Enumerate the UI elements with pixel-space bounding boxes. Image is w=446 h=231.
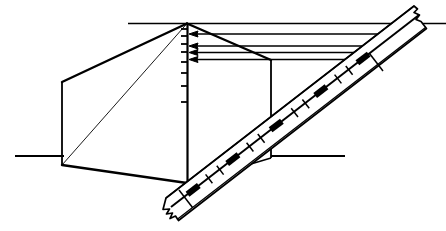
ray-arrow [189, 50, 356, 56]
box-edge-top-left [62, 24, 187, 83]
ray-arrow-head [189, 50, 198, 56]
technical-line-drawing [0, 0, 446, 231]
vertical-scale [181, 23, 188, 183]
ray-arrow-head [189, 31, 198, 37]
box-edge-top-right [187, 24, 271, 61]
ray-arrow [189, 43, 378, 49]
diagonal-ruler [163, 6, 427, 221]
ray-arrow-head [189, 57, 198, 63]
box-interior-diagonal [62, 24, 187, 166]
ruler-graduation-line [171, 15, 419, 207]
figure-canvas [0, 0, 446, 231]
ruler-edge-lower [177, 28, 426, 220]
ray-arrow-head [189, 43, 198, 49]
box-edge-bottom-left [62, 165, 187, 183]
ruler-edge-upper [166, 6, 414, 198]
